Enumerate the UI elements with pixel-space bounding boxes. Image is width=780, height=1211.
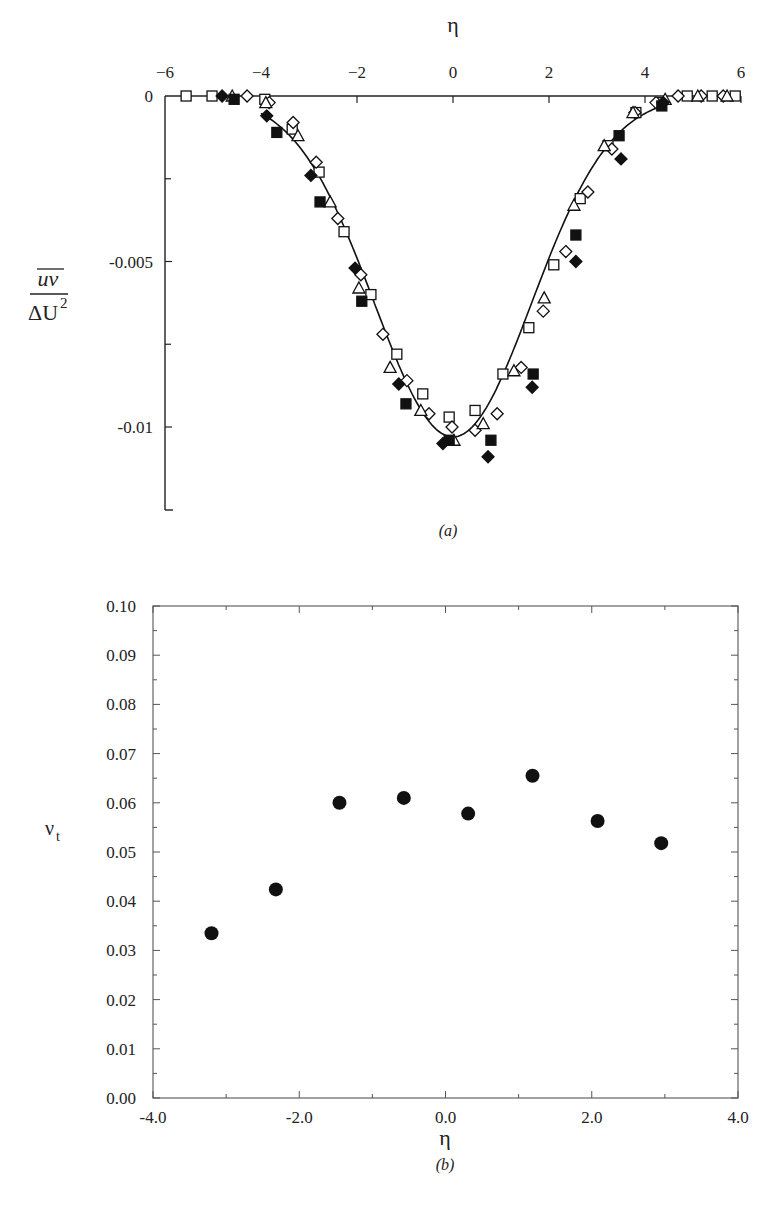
nu-t-point: [397, 791, 411, 805]
nu-t-point: [526, 769, 540, 783]
y-axis-title-b-subscript: t: [56, 829, 60, 844]
caption-b: (b): [436, 1156, 455, 1174]
ticks-b: -4.0-2.00.02.04.00.000.010.020.030.040.0…: [106, 597, 748, 1127]
y-tick-label-b: 0.07: [106, 745, 136, 764]
y-tick-label-b: 0.08: [106, 695, 136, 714]
y-tick-label-b: 0.06: [106, 794, 136, 813]
x-tick-label-b: -4.0: [140, 1108, 167, 1127]
nu-t-point: [591, 814, 605, 828]
y-axis-title-b: ν t: [45, 817, 60, 844]
points-b: [205, 769, 669, 940]
y-tick-label-b: 0.10: [106, 597, 136, 616]
x-tick-label-b: 2.0: [581, 1108, 602, 1127]
y-tick-label-b: 0.02: [106, 991, 136, 1010]
x-tick-label-b: -2.0: [286, 1108, 313, 1127]
nu-t-point: [461, 807, 475, 821]
y-tick-label-b: 0.04: [106, 892, 136, 911]
nu-t-point: [269, 882, 283, 896]
x-tick-label-b: 4.0: [727, 1108, 748, 1127]
axes-b: [153, 606, 738, 1098]
nu-t-point: [654, 836, 668, 850]
y-tick-label-b: 0.09: [106, 646, 136, 665]
y-axis-title-b-symbol: ν: [45, 817, 54, 839]
chart-b: -4.0-2.00.02.04.00.000.010.020.030.040.0…: [0, 0, 780, 1211]
nu-t-point: [332, 796, 346, 810]
y-tick-label-b: 0.01: [106, 1040, 136, 1059]
nu-t-point: [205, 926, 219, 940]
y-tick-label-b: 0.00: [106, 1089, 136, 1108]
plot-frame-b: [153, 606, 738, 1098]
y-tick-label-b: 0.03: [106, 941, 136, 960]
y-tick-label-b: 0.05: [106, 843, 136, 862]
series-nu_t: [205, 769, 669, 940]
x-axis-title-b: η: [439, 1125, 451, 1150]
